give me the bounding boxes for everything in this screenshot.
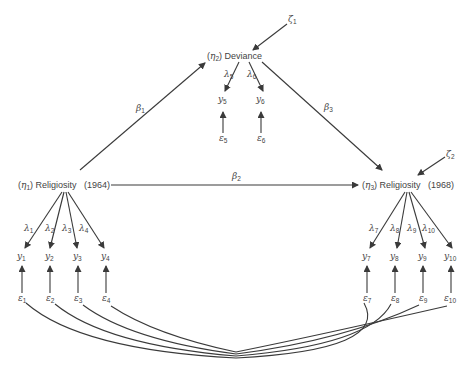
lambda7-label: λ7 bbox=[369, 224, 378, 235]
lambda1-label: λ1 bbox=[24, 224, 33, 235]
e10-label: ε10 bbox=[444, 294, 456, 305]
cov-e1-e7 bbox=[26, 303, 368, 358]
lambda5-label: λ5 bbox=[224, 70, 233, 81]
e6-label: ε6 bbox=[257, 134, 265, 145]
eta1-year: (1964) bbox=[84, 180, 110, 190]
lambda6-label: λ6 bbox=[247, 70, 256, 81]
eta3-node: (η3) Religiosity (1968) bbox=[362, 181, 454, 192]
beta3-label: β3 bbox=[324, 103, 333, 114]
lambda2-label: λ2 bbox=[45, 224, 54, 235]
e8-label: ε8 bbox=[391, 294, 399, 305]
eta3-year: (1968) bbox=[428, 180, 454, 190]
e5-label: ε5 bbox=[219, 134, 227, 145]
lambda10-label: λ10 bbox=[422, 224, 435, 235]
e4-label: ε4 bbox=[102, 294, 110, 305]
lambda3-label: λ3 bbox=[62, 224, 71, 235]
y2-label: y2 bbox=[45, 252, 54, 263]
y1-label: y1 bbox=[17, 252, 26, 263]
y4-label: y4 bbox=[101, 252, 110, 263]
e7-label: ε7 bbox=[363, 294, 371, 305]
cov-e4-e10 bbox=[111, 306, 447, 352]
lambda9-label: λ9 bbox=[407, 224, 416, 235]
beta1-arrow bbox=[80, 63, 205, 170]
beta2-label: β2 bbox=[232, 172, 241, 183]
eta2-name: Deviance bbox=[225, 51, 263, 61]
eta1-name: Religiosity bbox=[36, 180, 77, 190]
y9-label: y9 bbox=[418, 252, 427, 263]
zeta2-arrow bbox=[418, 157, 445, 175]
beta1-label: β1 bbox=[136, 104, 145, 115]
e9-label: ε9 bbox=[419, 294, 427, 305]
y10-label: y10 bbox=[444, 252, 456, 263]
e1-label: ε1 bbox=[18, 294, 26, 305]
eta3-name: Religiosity bbox=[380, 180, 421, 190]
y3-label: y3 bbox=[73, 252, 82, 263]
zeta1-arrow bbox=[253, 24, 287, 50]
lambda8-label: λ8 bbox=[390, 224, 399, 235]
e2-label: ε2 bbox=[46, 294, 54, 305]
eta2-node: (η2) Deviance bbox=[207, 52, 262, 63]
y6-label: y6 bbox=[256, 95, 265, 106]
y7-label: y7 bbox=[362, 252, 371, 263]
zeta1-label: ζ1 bbox=[288, 15, 297, 26]
lambda4-label: λ4 bbox=[79, 224, 88, 235]
e3-label: ε3 bbox=[74, 294, 82, 305]
eta1-node: (η1) Religiosity (1964) bbox=[18, 181, 110, 192]
y5-label: y5 bbox=[218, 95, 227, 106]
beta3-arrow bbox=[262, 62, 382, 170]
y8-label: y8 bbox=[390, 252, 399, 263]
zeta2-label: ζ2 bbox=[446, 150, 455, 161]
